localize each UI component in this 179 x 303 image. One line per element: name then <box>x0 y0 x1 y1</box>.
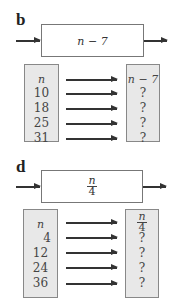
output-arrow <box>144 40 167 42</box>
output-value: ? <box>126 277 158 290</box>
input-value: 18 <box>25 102 58 115</box>
row-arrow <box>66 138 117 140</box>
row-arrow <box>66 252 117 254</box>
row-arrow <box>66 222 117 224</box>
input-value: 4 <box>24 232 57 245</box>
machine-expression: n − 7 <box>42 34 143 47</box>
output-value: ? <box>127 117 159 130</box>
row-arrow <box>66 237 117 239</box>
function-machine-box: n − 7 <box>41 24 144 57</box>
input-arrow <box>16 186 40 188</box>
output-value: ? <box>127 132 159 145</box>
row-arrow <box>66 123 117 125</box>
input-header: n <box>24 218 57 231</box>
input-value: 31 <box>25 132 58 145</box>
denominator: 4 <box>87 187 96 197</box>
function-machine-box: n 4 <box>41 170 143 203</box>
output-value: ? <box>126 232 158 245</box>
output-arrow <box>143 186 166 188</box>
row-arrow <box>66 79 117 81</box>
row-arrow <box>66 93 117 95</box>
input-value: 12 <box>24 247 57 260</box>
panel-label: b <box>16 10 25 30</box>
output-value: ? <box>127 102 159 115</box>
input-column: n 4 12 24 36 <box>23 209 58 298</box>
machine-expression: n 4 <box>42 176 142 198</box>
input-header: n <box>25 73 58 86</box>
output-header: n − 7 <box>127 73 159 86</box>
input-column: n 10 18 25 31 <box>24 64 59 142</box>
input-value: 25 <box>25 117 58 130</box>
output-column: n 4 ? ? ? ? <box>125 209 159 298</box>
input-arrow <box>16 40 40 42</box>
input-value: 24 <box>24 262 57 275</box>
panel-label: d <box>16 157 25 177</box>
output-value: ? <box>126 262 158 275</box>
fraction: n 4 <box>137 212 146 233</box>
output-column: n − 7 ? ? ? ? <box>126 64 160 142</box>
row-arrow <box>66 283 117 285</box>
input-value: 36 <box>24 277 57 290</box>
input-value: 10 <box>25 87 58 100</box>
row-arrow <box>66 267 117 269</box>
output-value: ? <box>127 87 159 100</box>
fraction: n 4 <box>87 176 96 197</box>
row-arrow <box>66 108 117 110</box>
output-value: ? <box>126 247 158 260</box>
